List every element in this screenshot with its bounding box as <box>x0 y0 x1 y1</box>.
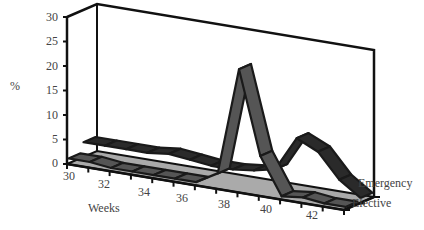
x-axis-label: Weeks <box>88 202 120 214</box>
y-tick-20: 20 <box>36 60 58 72</box>
y-tick-0: 0 <box>36 157 58 169</box>
y-tick-5: 5 <box>36 133 58 145</box>
x-tick-34: 34 <box>138 186 150 198</box>
ribbon-segment-emergency <box>318 147 351 180</box>
y-tick-30: 30 <box>36 11 58 23</box>
ribbon-segment-elective <box>239 64 272 156</box>
y-tick-15: 15 <box>36 84 58 96</box>
x-tick-32: 32 <box>98 178 110 190</box>
x-tick-38: 38 <box>218 198 230 210</box>
legend-emergency: Emergency <box>358 177 412 189</box>
x-tick-40: 40 <box>260 203 272 215</box>
y-tick-10: 10 <box>36 109 58 121</box>
y-tick-25: 25 <box>36 35 58 47</box>
y-axis-label: % <box>10 80 20 92</box>
x-tick-30: 30 <box>63 170 75 182</box>
x-tick-42: 42 <box>306 209 318 221</box>
x-tick-36: 36 <box>176 192 188 204</box>
legend-elective: Elective <box>352 197 391 209</box>
3d-line-chart: % 30 25 20 15 10 5 0 30 32 34 36 38 40 4… <box>0 0 424 230</box>
